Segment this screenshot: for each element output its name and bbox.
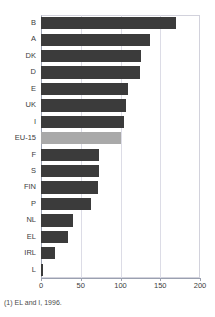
bar-label-d: D [0,64,36,80]
bar-row: UK [0,97,215,113]
bar-row: F [0,147,215,163]
bar-label-l: L [0,262,36,278]
bar-label-b: B [0,15,36,31]
bar-label-dk: DK [0,48,36,64]
bar-label-fin: FIN [0,179,36,195]
bar-el[interactable] [41,231,68,243]
bar-label-p: P [0,196,36,212]
bar-label-nl: NL [0,212,36,228]
bar-label-i: I [0,114,36,130]
bar-p[interactable] [41,198,91,210]
bar-label-eu-15: EU-15 [0,130,36,146]
bar-row: S [0,163,215,179]
bar-row: NL [0,212,215,228]
bar-irl[interactable] [41,247,55,259]
bar-row: DK [0,48,215,64]
bar-row: A [0,31,215,47]
chart-footnote: (1) EL and I, 1996. [4,299,62,306]
bar-row: FIN [0,179,215,195]
bar-label-e: E [0,81,36,97]
bar-fin[interactable] [41,181,98,193]
bar-row: D [0,64,215,80]
bar-row: EL [0,229,215,245]
bar-d[interactable] [41,66,140,78]
bar-row: EU-15 [0,130,215,146]
x-tick-label: 50 [77,281,85,290]
x-tick-label: 200 [194,281,207,290]
bar-label-s: S [0,163,36,179]
bar-l[interactable] [41,264,43,276]
bar-row: E [0,81,215,97]
bar-i[interactable] [41,116,124,128]
bar-label-f: F [0,147,36,163]
bar-b[interactable] [41,17,176,29]
bar-row: L [0,262,215,278]
bar-s[interactable] [41,165,99,177]
bar-a[interactable] [41,34,150,46]
bar-nl[interactable] [41,214,73,226]
x-axis-tick-labels: 050100150200 [0,281,215,293]
bar-chart: BADKDEUKIEU-15FSFINPNLELIRLL 05010015020… [0,0,215,317]
bar-row: P [0,196,215,212]
bar-e[interactable] [41,83,128,95]
x-tick-label: 150 [154,281,167,290]
bar-uk[interactable] [41,99,126,111]
bar-label-a: A [0,31,36,47]
bar-label-irl: IRL [0,245,36,261]
x-tick-label: 100 [114,281,127,290]
bar-eu-15[interactable] [41,132,121,144]
bar-row: I [0,114,215,130]
bar-label-uk: UK [0,97,36,113]
bar-label-el: EL [0,229,36,245]
bar-dk[interactable] [41,50,141,62]
bar-row: B [0,15,215,31]
bar-f[interactable] [41,149,99,161]
chart-title [40,0,190,9]
bar-row: IRL [0,245,215,261]
x-tick-label: 0 [39,281,43,290]
bar-rows: BADKDEUKIEU-15FSFINPNLELIRLL [0,15,215,278]
